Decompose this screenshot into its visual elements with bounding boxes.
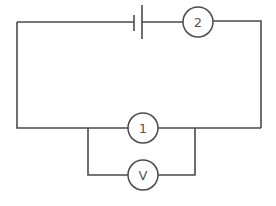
meter-2-label: 2 bbox=[194, 15, 202, 30]
voltmeter-label: V bbox=[139, 168, 148, 183]
wire-branch-left bbox=[88, 128, 128, 175]
meter-1: 1 bbox=[128, 113, 158, 143]
wire-left bbox=[17, 22, 128, 128]
voltmeter: V bbox=[128, 160, 158, 190]
wire-top-right bbox=[213, 21, 261, 128]
circuit-svg: 2 1 V bbox=[0, 0, 276, 206]
circuit-diagram: 2 1 V bbox=[0, 0, 276, 206]
meter-1-label: 1 bbox=[139, 121, 147, 136]
meter-2: 2 bbox=[183, 7, 213, 37]
wire-branch-right bbox=[158, 128, 195, 175]
battery-icon bbox=[134, 5, 142, 39]
